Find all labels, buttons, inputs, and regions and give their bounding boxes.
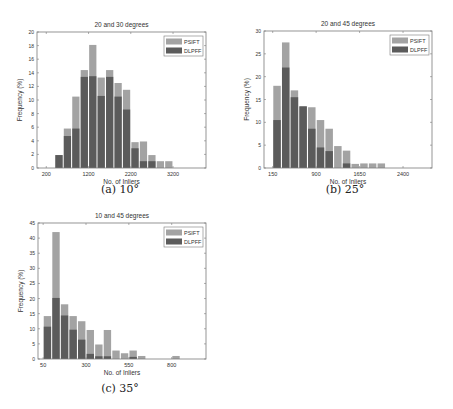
- chart-panel-c: 10 and 45 degrees05101520253035404550300…: [0, 205, 230, 409]
- legend-label-psift: PSIFT: [410, 38, 426, 44]
- y-tick-label: 20: [255, 74, 261, 80]
- bar-dlpff: [282, 68, 289, 168]
- bar-psift: [138, 356, 145, 359]
- bar-dlpff: [44, 327, 51, 359]
- bar-psift: [121, 353, 128, 359]
- bar-psift: [172, 356, 179, 359]
- bar-psift: [360, 163, 367, 168]
- histogram-a: 20 and 30 degrees02468101214161820200120…: [0, 0, 230, 200]
- bar-dlpff: [72, 129, 79, 168]
- y-tick-label: 10: [255, 119, 261, 125]
- bar-dlpff: [64, 136, 71, 168]
- x-tick-label: 550: [124, 362, 133, 368]
- y-tick-label: 14: [28, 70, 34, 76]
- bar-dlpff: [325, 151, 332, 168]
- x-axis-label: No. of Inliers: [104, 369, 141, 376]
- legend-swatch-dlpff: [166, 48, 182, 54]
- bar-dlpff: [273, 120, 280, 168]
- bar-dlpff: [123, 110, 130, 168]
- legend-label-dlpff: DLPFF: [410, 47, 428, 53]
- x-tick-label: 300: [81, 362, 90, 368]
- y-tick-label: 16: [28, 56, 34, 62]
- y-tick-label: 45: [29, 220, 35, 226]
- x-tick-label: 200: [42, 171, 51, 177]
- y-tick-label: 15: [255, 97, 261, 103]
- bar-dlpff: [106, 77, 113, 168]
- legend-label-psift: PSIFT: [184, 230, 200, 236]
- bar-dlpff: [55, 155, 62, 168]
- legend: PSIFTDLPFF: [390, 35, 429, 55]
- bar-psift: [351, 164, 358, 168]
- bar-dlpff: [317, 147, 324, 168]
- y-tick-label: 15: [29, 311, 35, 317]
- x-tick-label: 150: [268, 171, 277, 177]
- bar-psift: [165, 161, 172, 168]
- caption-a: (a) 10°: [60, 183, 180, 196]
- legend-swatch-psift: [166, 230, 182, 236]
- y-tick-label: 0: [32, 356, 35, 362]
- bar-dlpff: [131, 148, 138, 168]
- y-tick-label: 30: [29, 265, 35, 271]
- x-tick-label: 900: [312, 171, 321, 177]
- bar-dlpff: [308, 129, 315, 168]
- bar-dlpff: [299, 106, 306, 168]
- y-tick-label: 10: [29, 326, 35, 332]
- histogram-c: 10 and 45 degrees05101520253035404550300…: [0, 205, 230, 409]
- bar-psift: [369, 163, 376, 168]
- y-tick-label: 40: [29, 235, 35, 241]
- x-tick-label: 2400: [397, 171, 409, 177]
- bar-psift: [157, 161, 164, 168]
- x-tick-label: 800: [167, 362, 176, 368]
- chart-title: 10 and 45 degrees: [95, 212, 150, 220]
- bar-dlpff: [69, 330, 76, 359]
- y-axis-label: Frequency (%): [16, 79, 24, 122]
- bars: [273, 42, 385, 168]
- y-tick-label: 30: [255, 28, 261, 34]
- legend-label-dlpff: DLPFF: [184, 48, 202, 54]
- legend-swatch-psift: [166, 39, 182, 45]
- y-axis-label: Frequency (%): [17, 270, 25, 313]
- bar-psift: [378, 163, 385, 168]
- bar-dlpff: [140, 161, 147, 168]
- legend-swatch-dlpff: [166, 239, 182, 245]
- y-axis-label: Frequency (%): [243, 78, 251, 121]
- chart-title: 20 and 30 degrees: [94, 21, 149, 29]
- y-tick-label: 20: [29, 296, 35, 302]
- y-tick-label: 2: [31, 151, 34, 157]
- y-tick-label: 12: [28, 83, 34, 89]
- caption-b: (b) 25°: [290, 183, 400, 196]
- legend-label-psift: PSIFT: [184, 39, 200, 45]
- x-tick-label: 1200: [82, 171, 94, 177]
- bar-psift: [112, 351, 119, 359]
- y-tick-label: 20: [28, 29, 34, 35]
- legend-label-dlpff: DLPFF: [184, 239, 202, 245]
- y-tick-label: 0: [258, 165, 261, 171]
- x-tick-label: 2200: [125, 171, 137, 177]
- y-tick-label: 18: [28, 43, 34, 49]
- y-tick-label: 25: [255, 51, 261, 57]
- y-tick-label: 4: [31, 138, 34, 144]
- y-tick-label: 10: [28, 97, 34, 103]
- legend: PSIFTDLPFF: [164, 227, 203, 247]
- bar-dlpff: [148, 161, 155, 168]
- bar-dlpff: [104, 356, 111, 359]
- y-tick-label: 5: [258, 142, 261, 148]
- y-tick-label: 5: [32, 341, 35, 347]
- chart-title: 20 and 45 degrees: [321, 20, 376, 28]
- x-tick-label: 3200: [167, 171, 179, 177]
- chart-panel-b: 20 and 45 degrees05101520253015090016502…: [230, 0, 453, 200]
- histogram-b: 20 and 45 degrees05101520253015090016502…: [230, 0, 453, 200]
- x-tick-label: 1650: [353, 171, 365, 177]
- y-tick-label: 6: [31, 124, 34, 130]
- caption-c: (c) 35°: [60, 382, 180, 395]
- bar-psift: [334, 146, 341, 168]
- y-tick-label: 8: [31, 111, 34, 117]
- bar-dlpff: [114, 97, 121, 168]
- bar-dlpff: [95, 356, 102, 359]
- chart-panel-a: 20 and 30 degrees02468101214161820200120…: [0, 0, 230, 200]
- legend-swatch-dlpff: [392, 47, 408, 53]
- bars: [55, 45, 172, 168]
- bar-dlpff: [81, 77, 88, 168]
- legend-swatch-psift: [392, 38, 408, 44]
- bar-dlpff: [87, 354, 94, 359]
